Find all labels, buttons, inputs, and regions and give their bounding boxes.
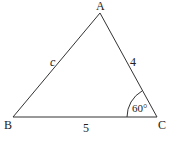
angle-c-label: 60° xyxy=(132,102,147,114)
side-ac-label: 4 xyxy=(130,55,136,69)
side-bc-label: 5 xyxy=(83,121,89,135)
vertex-a-label: A xyxy=(96,0,105,13)
vertex-b-label: B xyxy=(4,118,12,132)
vertex-c-label: C xyxy=(158,118,166,132)
triangle-diagram: A B C c 4 5 60° xyxy=(0,0,172,143)
side-ab-label: c xyxy=(50,55,56,69)
